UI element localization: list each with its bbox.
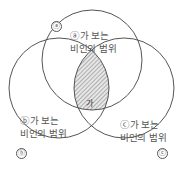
label-a-line1: ⓐ가 보는 <box>70 30 109 42</box>
marker-c: ⓒ <box>157 148 168 159</box>
label-b-line2: 비인의 범위 <box>20 128 66 140</box>
label-a-line2: 비인의 범위 <box>70 43 116 55</box>
label-b-line1: ⓑ가 보는 <box>20 115 59 127</box>
marker-b: ⓑ <box>16 148 27 159</box>
venn-diagram <box>0 0 180 188</box>
label-c-line1: ⓒ가 보는 <box>120 119 159 131</box>
marker-a: ⓐ <box>51 21 62 32</box>
label-c-line2: 비인의 범위 <box>120 132 166 144</box>
intersection-label: 가 <box>86 97 93 108</box>
